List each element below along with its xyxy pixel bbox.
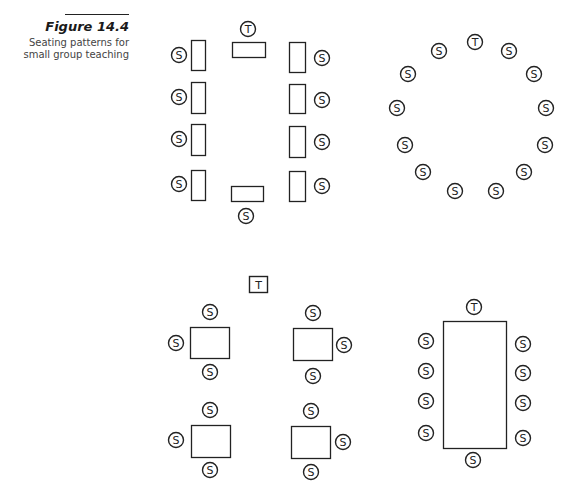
student-seat: S xyxy=(432,44,447,59)
svg-text:T: T xyxy=(254,279,262,292)
student-seat: S xyxy=(516,366,531,381)
svg-text:S: S xyxy=(420,166,427,179)
student-seat: S xyxy=(315,51,330,66)
layout-circle: TSSSSSSSSSSSS xyxy=(390,35,554,199)
desk xyxy=(233,43,266,58)
svg-text:S: S xyxy=(176,91,183,104)
svg-text:S: S xyxy=(506,45,513,58)
student-seat: S xyxy=(169,336,184,351)
student-seat: S xyxy=(304,404,319,419)
svg-text:S: S xyxy=(310,307,317,320)
svg-text:S: S xyxy=(207,366,214,379)
seating-diagram: TSSSSSSSSSTSSSSSSSSSSSSTSSSSSSSSSSSSTSSS… xyxy=(0,0,577,502)
student-seat: S xyxy=(172,177,187,192)
svg-text:S: S xyxy=(402,139,409,152)
student-seat: S xyxy=(203,463,218,478)
student-seat: S xyxy=(419,426,434,441)
svg-text:T: T xyxy=(244,23,252,36)
student-seat: S xyxy=(398,138,413,153)
svg-text:S: S xyxy=(520,367,527,380)
svg-text:S: S xyxy=(493,185,500,198)
svg-text:S: S xyxy=(308,405,315,418)
student-seat: S xyxy=(203,305,218,320)
student-seat: S xyxy=(239,209,254,224)
svg-text:S: S xyxy=(452,185,459,198)
desk xyxy=(292,427,331,459)
student-seat: S xyxy=(516,396,531,411)
svg-text:S: S xyxy=(520,338,527,351)
teacher-seat: T xyxy=(241,22,256,37)
student-seat: S xyxy=(502,44,517,59)
svg-text:S: S xyxy=(405,68,412,81)
desk xyxy=(290,127,306,158)
svg-text:S: S xyxy=(520,432,527,445)
desk xyxy=(192,83,206,114)
teacher-seat: T xyxy=(468,35,483,50)
desk xyxy=(191,328,230,359)
student-seat: S xyxy=(466,453,481,468)
svg-text:S: S xyxy=(394,102,401,115)
desk xyxy=(192,171,206,201)
student-seat: S xyxy=(516,337,531,352)
desk xyxy=(192,125,206,156)
student-seat: S xyxy=(538,138,553,153)
svg-text:S: S xyxy=(521,166,528,179)
svg-text:S: S xyxy=(423,395,430,408)
svg-text:S: S xyxy=(520,397,527,410)
svg-text:S: S xyxy=(423,335,430,348)
svg-text:S: S xyxy=(470,454,477,467)
layout-boardroom-table: TSSSSSSSSS xyxy=(419,300,531,468)
student-seat: S xyxy=(448,184,463,199)
svg-text:S: S xyxy=(173,337,180,350)
student-seat: S xyxy=(416,165,431,180)
svg-text:S: S xyxy=(319,180,326,193)
student-seat: S xyxy=(336,435,351,450)
svg-text:T: T xyxy=(471,36,479,49)
student-seat: S xyxy=(401,67,416,82)
student-seat: S xyxy=(419,394,434,409)
svg-text:S: S xyxy=(310,370,317,383)
student-seat: S xyxy=(306,369,321,384)
student-seat: S xyxy=(419,334,434,349)
teacher-seat: T xyxy=(467,300,482,315)
svg-text:S: S xyxy=(173,434,180,447)
svg-text:S: S xyxy=(207,306,214,319)
svg-text:S: S xyxy=(176,49,183,62)
student-seat: S xyxy=(539,101,554,116)
student-seat: S xyxy=(315,179,330,194)
student-seat: S xyxy=(306,306,321,321)
student-seat: S xyxy=(203,403,218,418)
student-seat: S xyxy=(517,165,532,180)
student-seat: S xyxy=(203,365,218,380)
svg-text:S: S xyxy=(340,436,347,449)
svg-text:S: S xyxy=(319,136,326,149)
desk xyxy=(290,85,306,114)
teacher-box: T xyxy=(250,277,268,293)
svg-text:S: S xyxy=(423,427,430,440)
desk xyxy=(294,329,333,361)
student-seat: S xyxy=(390,101,405,116)
svg-text:S: S xyxy=(319,94,326,107)
student-seat: S xyxy=(304,465,319,480)
svg-text:S: S xyxy=(341,339,348,352)
student-seat: S xyxy=(527,67,542,82)
student-seat: S xyxy=(419,364,434,379)
desk xyxy=(290,172,306,202)
svg-text:S: S xyxy=(308,466,315,479)
student-seat: S xyxy=(172,132,187,147)
svg-text:S: S xyxy=(176,178,183,191)
desk xyxy=(192,41,206,71)
svg-text:S: S xyxy=(319,52,326,65)
desk xyxy=(290,43,306,73)
student-seat: S xyxy=(169,433,184,448)
student-seat: S xyxy=(172,90,187,105)
desk xyxy=(232,187,264,202)
desk xyxy=(192,426,231,458)
svg-text:S: S xyxy=(436,45,443,58)
student-seat: S xyxy=(315,135,330,150)
desk xyxy=(444,322,507,449)
svg-text:S: S xyxy=(176,133,183,146)
layout-horseshoe-desks: TSSSSSSSSS xyxy=(172,22,330,224)
svg-text:S: S xyxy=(543,102,550,115)
student-seat: S xyxy=(315,93,330,108)
